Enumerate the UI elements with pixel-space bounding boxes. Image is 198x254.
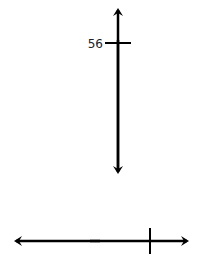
- vertical-number-line: 56: [88, 10, 131, 172]
- number-lines-diagram: 56: [0, 0, 198, 254]
- horizontal-number-line: [16, 228, 187, 254]
- tick-label-56: 56: [88, 37, 103, 51]
